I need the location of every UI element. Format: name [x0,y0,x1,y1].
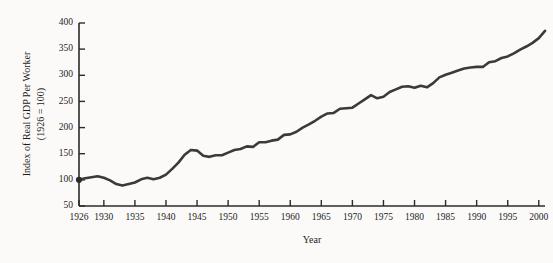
chart-plot-area: 400 350 300 250 200 150 100 50 192619301… [0,0,553,263]
x-tick-label-1980: 1980 [405,212,424,222]
x-tick-label-2000: 2000 [529,212,548,222]
y-tick-label-350: 350 [59,43,74,53]
y-tick-label-250: 250 [59,96,74,106]
x-tick-label-1965: 1965 [312,212,331,222]
x-tick-label-1940: 1940 [156,212,175,222]
y-tick-label-400: 400 [59,17,74,27]
x-tick-label-1960: 1960 [281,212,300,222]
y-tick-label-100: 100 [59,174,74,184]
y-axis-tick-labels: 400 350 300 250 200 150 100 50 [59,17,74,210]
x-tick-label-1945: 1945 [188,212,207,222]
x-tick-label-1970: 1970 [343,212,362,222]
x-axis-tick-labels: 1926193019351940194519501955196019651970… [70,212,549,222]
y-axis-title-line1: Index of Real GDP Per Worker [21,51,32,176]
series-start-marker [76,177,82,183]
gdp-per-worker-line [79,31,545,186]
x-axis-title: Year [303,234,322,245]
y-tick-label-50: 50 [64,200,74,210]
y-tick-label-150: 150 [59,148,74,158]
x-tick-label-1950: 1950 [219,212,238,222]
x-tick-label-1990: 1990 [467,212,486,222]
x-tick-label-1935: 1935 [125,212,144,222]
x-tick-label-1985: 1985 [436,212,455,222]
x-tick-label-1930: 1930 [94,212,113,222]
x-tick-label-1975: 1975 [374,212,393,222]
chart-figure: 400 350 300 250 200 150 100 50 192619301… [0,0,553,263]
x-tick-label-1955: 1955 [250,212,269,222]
x-tick-label-1926: 1926 [70,212,89,222]
x-tick-label-1995: 1995 [498,212,517,222]
y-axis-title-line2: (1926 = 100) [35,88,47,140]
y-tick-label-200: 200 [59,122,74,132]
y-tick-label-300: 300 [59,69,74,79]
x-axis-ticks [79,200,539,206]
